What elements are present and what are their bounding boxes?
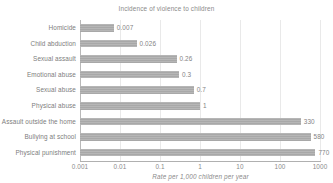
bar-row: Assault outside the home330 bbox=[0, 114, 333, 130]
category-label: Assault outside the home bbox=[0, 114, 76, 130]
x-tick-label: 0.001 bbox=[72, 163, 89, 170]
x-tick-label: 10 bbox=[236, 163, 243, 170]
x-tick-label: 0.01 bbox=[114, 163, 127, 170]
bar-row: Physical punishment770 bbox=[0, 145, 333, 161]
bar[interactable] bbox=[80, 149, 315, 157]
bar-value-label: 1 bbox=[203, 98, 207, 114]
bar-value-label: 0.007 bbox=[117, 20, 134, 36]
bar-value-label: 0.26 bbox=[180, 51, 193, 67]
x-axis-line bbox=[80, 161, 321, 162]
bar-value-label: 770 bbox=[318, 145, 329, 161]
bar-value-label: 580 bbox=[314, 129, 325, 145]
category-label: Sexual abuse bbox=[0, 82, 76, 98]
chart-title: Incidence of violence to children bbox=[0, 5, 333, 12]
x-axis-title: Rate per 1,000 children per year bbox=[80, 173, 321, 180]
x-tick-label: 100 bbox=[275, 163, 286, 170]
category-label: Sexual assault bbox=[0, 51, 76, 67]
bar-row: Bullying at school580 bbox=[0, 129, 333, 145]
bar-value-label: 330 bbox=[304, 114, 315, 130]
bar-row: Homicide0.007 bbox=[0, 20, 333, 36]
bar-value-label: 0.3 bbox=[182, 67, 191, 83]
bar[interactable] bbox=[80, 86, 194, 94]
bar-row: Physical abuse1 bbox=[0, 98, 333, 114]
category-label: Child abduction bbox=[0, 36, 76, 52]
bar[interactable] bbox=[80, 102, 200, 110]
category-label: Physical abuse bbox=[0, 98, 76, 114]
bar[interactable] bbox=[80, 55, 177, 63]
category-label: Physical punishment bbox=[0, 145, 76, 161]
bar[interactable] bbox=[80, 118, 301, 126]
bar[interactable] bbox=[80, 40, 137, 48]
category-label: Bullying at school bbox=[0, 129, 76, 145]
category-label: Homicide bbox=[0, 20, 76, 36]
x-tick-label: 1 bbox=[198, 163, 202, 170]
bar[interactable] bbox=[80, 133, 311, 141]
bar-row: Sexual abuse0.7 bbox=[0, 82, 333, 98]
x-tick-label: 1000 bbox=[313, 163, 328, 170]
x-tick-label: 0.1 bbox=[155, 163, 164, 170]
bar[interactable] bbox=[80, 24, 114, 32]
chart-container: Incidence of violence to children Homici… bbox=[0, 0, 333, 183]
bar-row: Sexual assault0.26 bbox=[0, 51, 333, 67]
bar-value-label: 0.026 bbox=[140, 36, 157, 52]
category-label: Emotional abuse bbox=[0, 67, 76, 83]
bar-row: Child abduction0.026 bbox=[0, 36, 333, 52]
bar[interactable] bbox=[80, 71, 179, 79]
bar-row: Emotional abuse0.3 bbox=[0, 67, 333, 83]
bar-value-label: 0.7 bbox=[197, 82, 206, 98]
